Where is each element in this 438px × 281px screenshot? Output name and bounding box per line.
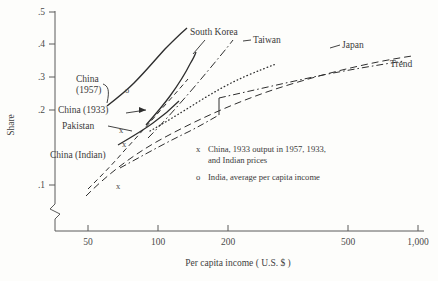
marker-x-1: x [119, 125, 124, 135]
arrowhead-china-1933 [139, 107, 146, 113]
series-label-trend: Trend [390, 59, 413, 69]
y-axis-title: Share [6, 114, 16, 136]
series-label-taiwan: Taiwan [253, 35, 281, 45]
x-tick-label-100: 100 [151, 237, 166, 247]
series-label-china-1933: China (1933) [58, 105, 108, 116]
x-tick-label-500: 500 [341, 237, 356, 247]
legend-mark-o: o [196, 172, 200, 182]
legend-text-o-line1: India, average per capita income [208, 172, 320, 182]
y-tick-label-2: .2 [38, 105, 45, 115]
x-tick-label-50: 50 [83, 237, 93, 247]
leader-taiwan [243, 40, 251, 41]
leader-china-1957 [103, 84, 108, 103]
series-label-south-korea: South Korea [190, 27, 239, 37]
curve-japan-lower [120, 115, 219, 168]
y-tick-label-5: .5 [38, 7, 45, 17]
series-label-pakistan: Pakistan [62, 121, 94, 131]
legend-mark-x: x [196, 144, 201, 154]
series-label-china-1957-line2: (1957) [76, 85, 101, 96]
legend-text-x-line2: and Indian prices [208, 155, 268, 165]
y-tick-label-3: .3 [38, 72, 45, 82]
marker-x-3: x [116, 181, 121, 191]
leader-japan [330, 45, 340, 48]
legend: x China, 1933 output in 1957, 1933, and … [196, 144, 326, 182]
curve-japan-upper [219, 61, 404, 98]
x-axis-title: Per capita income ( U.S. $ ) [185, 258, 291, 269]
x-tick-label-200: 200 [221, 237, 236, 247]
series-label-china-1957-line1: China [76, 74, 99, 84]
x-tick-label-1000: 1,000 [407, 237, 429, 247]
y-axis-break-icon [50, 204, 60, 231]
y-tick-label-1: .1 [38, 180, 45, 190]
chart-svg: .5 .4 .3 .2 .1 50 100 200 500 1,000 Per … [0, 0, 438, 281]
x-axis [55, 225, 424, 231]
y-axis [49, 11, 60, 231]
series-label-china-indian: China (Indian) [50, 150, 106, 161]
leader-south-korea [193, 40, 205, 54]
y-tick-label-4: .4 [38, 39, 45, 49]
chart-figure: .5 .4 .3 .2 .1 50 100 200 500 1,000 Per … [0, 0, 438, 281]
legend-text-x-line1: China, 1933 output in 1957, 1933, [208, 144, 326, 154]
series-label-japan: Japan [342, 40, 364, 50]
curve-china-indian [88, 79, 188, 189]
marker-o-1: o [125, 85, 129, 95]
